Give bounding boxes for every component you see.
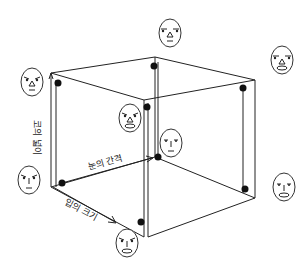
axis-labels: 코의 넓이 눈의 간격 입의 크기	[32, 120, 123, 222]
axis-label-eye-spacing: 눈의 간격	[87, 152, 124, 172]
chernoff-face	[159, 19, 181, 47]
chernoff-face	[160, 129, 182, 157]
vertex-dots	[55, 63, 249, 226]
axis-arrows	[49, 73, 153, 223]
axis-label-vertical: 코의 넓이	[32, 120, 42, 155]
chernoff-face	[271, 46, 293, 74]
diagram-canvas: 코의 넓이 눈의 간격 입의 크기	[0, 0, 308, 273]
chernoff-face	[21, 68, 43, 96]
faces	[18, 19, 295, 257]
chernoff-face	[273, 173, 295, 201]
chernoff-face	[119, 104, 141, 132]
chernoff-face	[18, 166, 40, 194]
axis-label-mouth-size: 입의 크기	[63, 196, 99, 222]
chernoff-face	[116, 229, 138, 257]
chernoff-cube-diagram: 코의 넓이 눈의 간격 입의 크기	[0, 0, 308, 273]
